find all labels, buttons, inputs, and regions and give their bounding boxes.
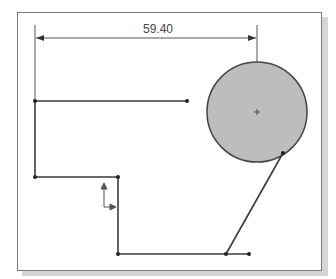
dimension-value[interactable]: 59.40 — [141, 22, 175, 36]
sketch-canvas — [0, 0, 336, 279]
origin-axis-icon — [101, 183, 116, 210]
